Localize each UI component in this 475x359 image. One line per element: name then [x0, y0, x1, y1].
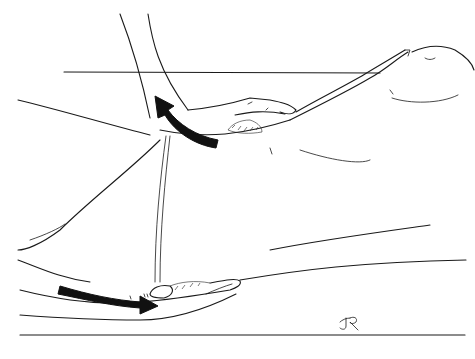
body-contours [18, 140, 466, 282]
lower-hand [20, 280, 240, 320]
vertical-strands [155, 136, 170, 282]
artist-signature [340, 317, 358, 330]
patient-arm [290, 50, 410, 120]
massage-line-drawing [0, 0, 475, 359]
illustration-canvas [0, 0, 475, 359]
torso-outline [18, 46, 474, 162]
upper-curved-arrow-icon [155, 96, 218, 148]
upper-arm [120, 14, 188, 118]
